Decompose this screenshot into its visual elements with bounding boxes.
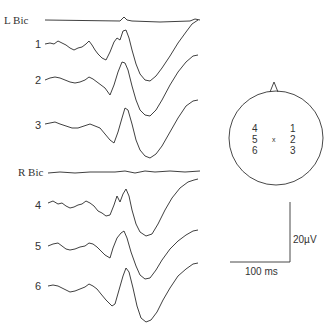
- scale-bar: 20µV 100 ms: [230, 202, 317, 277]
- head-map: 4 5 6 x 1 2 3: [229, 82, 323, 185]
- head-outline: [229, 91, 323, 185]
- voltage-scale-label: 20µV: [293, 234, 317, 245]
- trace-3-label: 3: [35, 119, 41, 131]
- nose-marker-icon: [270, 82, 278, 92]
- electrode-6: 6: [252, 145, 258, 156]
- electrode-5: 5: [252, 134, 258, 145]
- trace-2-label: 2: [35, 74, 41, 86]
- r-bic-label: R Bic: [18, 166, 43, 178]
- l-bic-label: L Bic: [4, 14, 28, 26]
- trace-4-label: 4: [35, 199, 41, 211]
- trace-5-label: 5: [35, 240, 41, 252]
- trace-1-label: 1: [35, 38, 41, 50]
- electrode-1: 1: [290, 123, 296, 134]
- l-bic-trace: [45, 17, 200, 22]
- trace-6-label: 6: [35, 280, 41, 292]
- time-scale-label: 100 ms: [245, 266, 278, 277]
- trace-1: [45, 20, 198, 81]
- trace-5: [48, 230, 198, 279]
- trace-6: [48, 263, 198, 322]
- r-bic-trace: [48, 171, 200, 173]
- electrode-3: 3: [290, 145, 296, 156]
- trace-3: [45, 100, 198, 158]
- trace-4: [48, 179, 198, 236]
- vertex-marker: x: [272, 136, 276, 143]
- electrode-4: 4: [252, 123, 258, 134]
- electrode-2: 2: [290, 134, 296, 145]
- evoked-potential-figure: L Bic 1 2 3 R Bic 4 5 6 4 5 6 x 1 2 3 20…: [0, 0, 334, 336]
- trace-2: [45, 55, 198, 116]
